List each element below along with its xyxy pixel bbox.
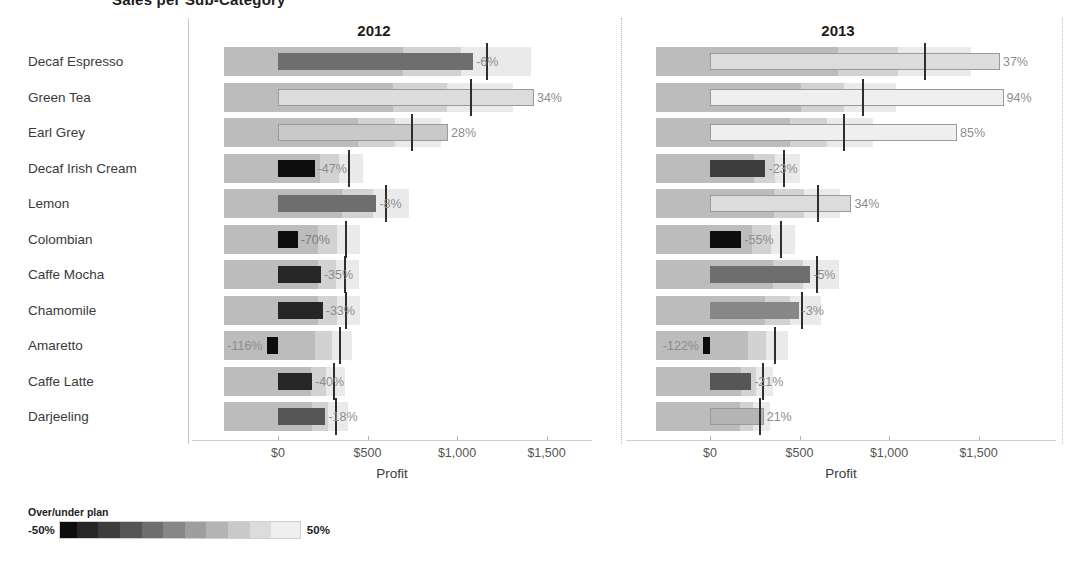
measure-bar[interactable] <box>278 160 315 177</box>
axis-tick-label: $1,500 <box>959 446 997 460</box>
measure-bar[interactable] <box>703 337 710 354</box>
bullet-row[interactable]: 21% <box>626 399 1056 435</box>
measure-bar[interactable] <box>267 337 278 354</box>
category-axis: Decaf EspressoGreen TeaEarl GreyDecaf Ir… <box>0 44 186 434</box>
measure-bar[interactable] <box>278 195 376 212</box>
value-label: -8% <box>379 198 401 211</box>
bullet-row[interactable]: -35% <box>192 257 592 293</box>
legend-max-label: 50% <box>307 524 330 536</box>
category-label: Colombian <box>28 222 186 258</box>
reference-marker <box>924 43 926 80</box>
category-label: Lemon <box>28 186 186 222</box>
measure-bar[interactable] <box>710 89 1004 106</box>
bullet-row[interactable]: 28% <box>192 115 592 151</box>
value-label: -5% <box>813 269 835 282</box>
measure-bar[interactable] <box>710 302 799 319</box>
value-label: -122% <box>663 340 699 353</box>
plot-area-2012: -6%34%28%-47%-8%-70%-35%-33%-116%-40%-18… <box>192 44 592 434</box>
value-label: -70% <box>301 234 330 247</box>
bullet-row[interactable]: 85% <box>626 115 1056 151</box>
bullet-row[interactable]: -40% <box>192 364 592 400</box>
value-label: -40% <box>315 376 344 389</box>
bullet-row[interactable]: 37% <box>626 44 1056 80</box>
axis-tick <box>368 436 369 440</box>
category-label: Caffe Mocha <box>28 257 186 293</box>
reference-marker <box>345 221 347 258</box>
measure-bar[interactable] <box>710 124 957 141</box>
bullet-row[interactable]: -116% <box>192 328 592 364</box>
x-axis-2013: Profit $0$500$1,000$1,500 <box>626 440 1056 494</box>
axis-tick-label: $0 <box>703 446 717 460</box>
measure-bar[interactable] <box>278 231 298 248</box>
bullet-row[interactable]: 94% <box>626 80 1056 116</box>
category-label: Earl Grey <box>28 115 186 151</box>
measure-bar[interactable] <box>278 408 325 425</box>
qualitative-band <box>766 331 788 360</box>
measure-bar[interactable] <box>710 408 764 425</box>
bullet-row[interactable]: -18% <box>192 399 592 435</box>
value-label: -18% <box>328 411 357 424</box>
qualitative-band <box>332 331 353 360</box>
bullet-row[interactable]: -8% <box>192 186 592 222</box>
panel-left-border-2013 <box>621 18 623 444</box>
panel-2013: 2013 37%94%85%-23%34%-55%-5%-3%-122%-21%… <box>620 0 1084 495</box>
reference-marker <box>862 79 864 116</box>
bullet-row[interactable]: -5% <box>626 257 1056 293</box>
category-label: Amaretto <box>28 328 186 364</box>
measure-bar[interactable] <box>278 53 473 70</box>
value-label: -35% <box>324 269 353 282</box>
category-label: Green Tea <box>28 80 186 116</box>
bullet-row[interactable]: -47% <box>192 151 592 187</box>
axis-tick <box>710 436 711 440</box>
value-label: -23% <box>768 163 797 176</box>
value-label: -47% <box>318 163 347 176</box>
bullet-row[interactable]: -55% <box>626 222 1056 258</box>
legend-title: Over/under plan <box>28 506 330 518</box>
measure-bar[interactable] <box>710 160 765 177</box>
category-label: Chamomile <box>28 293 186 329</box>
axis-tick-label: $1,500 <box>527 446 565 460</box>
reference-marker <box>759 398 761 435</box>
bullet-row[interactable]: -70% <box>192 222 592 258</box>
category-label: Decaf Irish Cream <box>28 151 186 187</box>
qualitative-band <box>337 225 360 254</box>
measure-bar[interactable] <box>710 266 810 283</box>
panel-2012: 2012 -6%34%28%-47%-8%-70%-35%-33%-116%-4… <box>186 0 602 495</box>
value-label: -6% <box>476 56 498 69</box>
value-label: 85% <box>960 127 985 140</box>
value-label: 37% <box>1003 56 1028 69</box>
measure-bar[interactable] <box>278 266 321 283</box>
legend-gradient-swatch <box>59 521 301 539</box>
reference-marker <box>774 327 776 364</box>
axis-tick <box>800 436 801 440</box>
bullet-row[interactable]: -3% <box>626 293 1056 329</box>
qualitative-band <box>315 331 332 360</box>
reference-marker <box>470 79 472 116</box>
bullet-row[interactable]: -6% <box>192 44 592 80</box>
measure-bar[interactable] <box>278 89 534 106</box>
bullet-row[interactable]: 34% <box>626 186 1056 222</box>
measure-bar[interactable] <box>710 195 851 212</box>
axis-tick <box>278 436 279 440</box>
bullet-row[interactable]: -122% <box>626 328 1056 364</box>
measure-bar[interactable] <box>278 124 448 141</box>
bullet-row[interactable]: -23% <box>626 151 1056 187</box>
axis-tick <box>979 436 980 440</box>
measure-bar[interactable] <box>710 231 741 248</box>
value-label: -21% <box>754 376 783 389</box>
measure-bar[interactable] <box>278 373 312 390</box>
bullet-row[interactable]: -21% <box>626 364 1056 400</box>
measure-bar[interactable] <box>710 373 751 390</box>
bullet-row[interactable]: -33% <box>192 293 592 329</box>
panel-right-border-2013 <box>1062 18 1063 444</box>
bullet-row[interactable]: 34% <box>192 80 592 116</box>
x-axis-title: Profit <box>192 466 592 481</box>
legend-ramp-row: -50% 50% <box>28 521 330 539</box>
measure-bar[interactable] <box>278 302 323 319</box>
reference-marker <box>843 114 845 151</box>
measure-bar[interactable] <box>710 53 1000 70</box>
axis-tick <box>547 436 548 440</box>
reference-marker <box>817 185 819 222</box>
value-label: 34% <box>854 198 879 211</box>
reference-marker <box>411 114 413 151</box>
